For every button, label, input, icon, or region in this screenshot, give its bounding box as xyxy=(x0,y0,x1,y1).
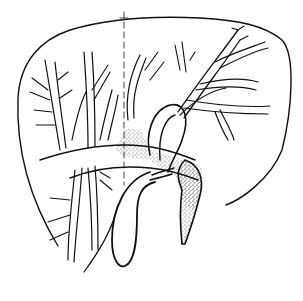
right-lobe-branches xyxy=(175,26,270,140)
gallbladder xyxy=(112,168,174,266)
lower-branches xyxy=(48,166,112,262)
liver-diagram-svg xyxy=(0,0,303,301)
left-lobe-branches xyxy=(30,52,164,150)
duodenum xyxy=(178,160,201,244)
liver-illustration xyxy=(0,0,303,301)
